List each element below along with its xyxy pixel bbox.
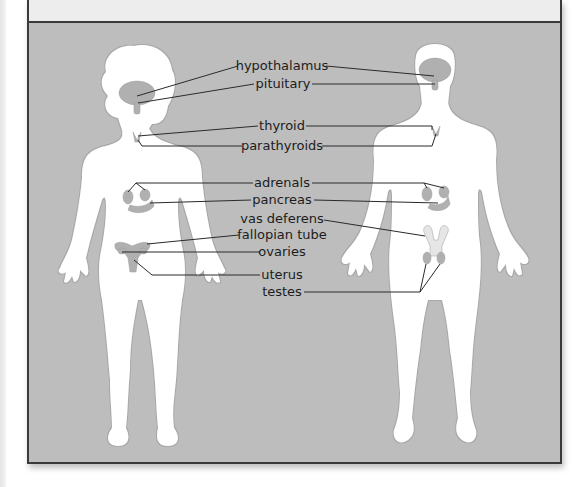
diagram-frame: hypothalamus pituitary thyroid parathyro… xyxy=(27,0,562,464)
label-uterus: uterus xyxy=(261,267,303,282)
labels: hypothalamus pituitary thyroid parathyro… xyxy=(236,58,329,299)
label-hypothalamus: hypothalamus xyxy=(236,58,329,73)
label-pituitary: pituitary xyxy=(256,76,311,91)
female-brainstem xyxy=(134,102,140,114)
label-testes: testes xyxy=(262,284,302,299)
label-vas-deferens: vas deferens xyxy=(240,211,324,226)
male-brainstem xyxy=(432,80,438,90)
male-testis-right xyxy=(437,252,445,264)
female-adrenal-right xyxy=(140,189,150,201)
male-body xyxy=(342,102,529,442)
label-adrenals: adrenals xyxy=(254,175,310,190)
left-edge-strip xyxy=(0,0,6,487)
diagram-panel: hypothalamus pituitary thyroid parathyro… xyxy=(29,23,560,462)
female-body xyxy=(59,126,226,446)
female-adrenal-left xyxy=(123,190,133,204)
top-band xyxy=(29,0,560,23)
male-adrenal-left xyxy=(422,187,432,201)
label-fallopian-tube: fallopian tube xyxy=(237,227,327,242)
male-brain xyxy=(419,58,451,82)
female-ovary-right xyxy=(139,248,147,254)
endocrine-diagram: hypothalamus pituitary thyroid parathyro… xyxy=(29,23,560,462)
male-testis-left xyxy=(423,252,431,264)
label-pancreas: pancreas xyxy=(252,192,312,207)
female-ovary-left xyxy=(118,248,126,254)
label-parathyroids: parathyroids xyxy=(241,138,323,153)
label-thyroid: thyroid xyxy=(259,118,305,133)
label-ovaries: ovaries xyxy=(258,244,306,259)
